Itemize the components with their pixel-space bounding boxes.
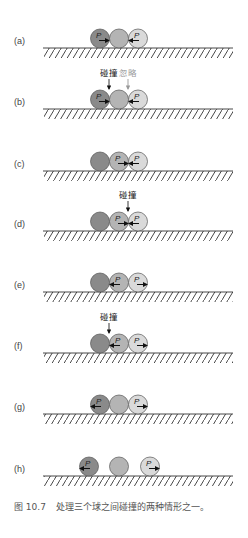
ball-p-label: P xyxy=(96,397,102,406)
panel-label: (e) xyxy=(14,280,25,290)
three-ball-collision-diagram: (a)PP(b)PP碰撞忽略(c)PP(d)PP碰撞(e)PP(f)PP碰撞(g… xyxy=(0,0,248,538)
ball-p-label: P xyxy=(96,92,102,101)
panel-a: (a)PP xyxy=(14,29,233,58)
panel-label: (d) xyxy=(14,219,25,229)
panel-label: (c) xyxy=(14,159,25,169)
ball-p-label: P xyxy=(115,214,121,223)
ball-p-label: P xyxy=(146,459,152,468)
ball-p-label: P xyxy=(115,154,121,163)
annotation-collide: 碰撞 xyxy=(119,190,137,200)
ball-p-label: P xyxy=(134,336,140,345)
annotation-ignore: 忽略 xyxy=(119,68,137,78)
ground-hatch xyxy=(44,109,233,119)
panel-label: (b) xyxy=(14,97,25,107)
ground-hatch xyxy=(44,476,233,486)
panel-label: (a) xyxy=(14,36,25,46)
panel-h: (h)PP xyxy=(14,457,233,486)
ball-p-label: P xyxy=(134,31,140,40)
panel-e: (e)PP xyxy=(14,273,233,302)
panel-label: (g) xyxy=(14,402,25,412)
panel-f: (f)PP碰撞 xyxy=(14,312,233,363)
ball-p-label: P xyxy=(115,336,121,345)
ground-hatch xyxy=(44,292,233,302)
panel-b: (b)PP碰撞忽略 xyxy=(14,68,233,119)
annotation-collide: 碰撞 xyxy=(100,68,118,78)
panel-label: (h) xyxy=(14,464,25,474)
ground-hatch xyxy=(44,231,233,241)
panel-c: (c)PP xyxy=(14,152,233,181)
ball-dark xyxy=(91,273,110,292)
ball-p-label: P xyxy=(134,92,140,101)
ball-p-label: P xyxy=(134,275,140,284)
ball-p-label: P xyxy=(134,214,140,223)
ball-p-label: P xyxy=(134,397,140,406)
ball-p-label: P xyxy=(85,459,91,468)
ball-p-label: P xyxy=(96,31,102,40)
caption-number: 图 10.7 xyxy=(14,502,46,512)
ball-dark xyxy=(91,152,110,171)
annotation-collide: 碰撞 xyxy=(100,312,118,322)
ball-mid xyxy=(110,29,129,48)
panel-g: (g)PP xyxy=(14,395,233,424)
ground-hatch xyxy=(44,48,233,58)
ground-hatch xyxy=(44,414,233,424)
ball-dark xyxy=(91,334,110,353)
ground-hatch xyxy=(44,171,233,181)
caption-text: 处理三个球之间碰撞的两种情形之一。 xyxy=(56,502,209,512)
ball-mid xyxy=(110,395,129,414)
ball-p-label: P xyxy=(134,154,140,163)
figure-caption: 图 10.7处理三个球之间碰撞的两种情形之一。 xyxy=(14,500,209,513)
ball-p-label: P xyxy=(115,275,121,284)
ball-mid xyxy=(110,457,129,476)
ground-hatch xyxy=(44,353,233,363)
ball-mid xyxy=(110,90,129,109)
panel-d: (d)PP碰撞 xyxy=(14,190,233,241)
ball-dark xyxy=(91,212,110,231)
panel-label: (f) xyxy=(14,341,23,351)
